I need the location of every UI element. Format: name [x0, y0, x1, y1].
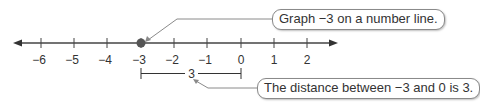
plotted-point: [137, 39, 146, 48]
leader-arrowhead-distance-icon: [193, 79, 199, 84]
tick-label: 1: [271, 53, 278, 67]
leader-line-distance: [196, 81, 258, 88]
tick-label: 0: [238, 53, 245, 67]
tick-label: −6: [32, 53, 46, 67]
callout-distance: The distance between −3 and 0 is 3.: [257, 78, 480, 99]
tick-label: −5: [65, 53, 79, 67]
callout-graph-point: Graph −3 on a number line.: [272, 9, 445, 30]
leader-line-point: [148, 19, 278, 40]
left-arrow-icon: [13, 40, 22, 47]
tick-label: −2: [165, 53, 179, 67]
tick-label: −4: [98, 53, 112, 67]
distance-label: 3: [188, 67, 195, 81]
tick-label: −1: [198, 53, 212, 67]
tick-label: −3: [132, 53, 146, 67]
right-arrow-icon: [329, 40, 338, 47]
tick-label: 2: [304, 53, 311, 67]
